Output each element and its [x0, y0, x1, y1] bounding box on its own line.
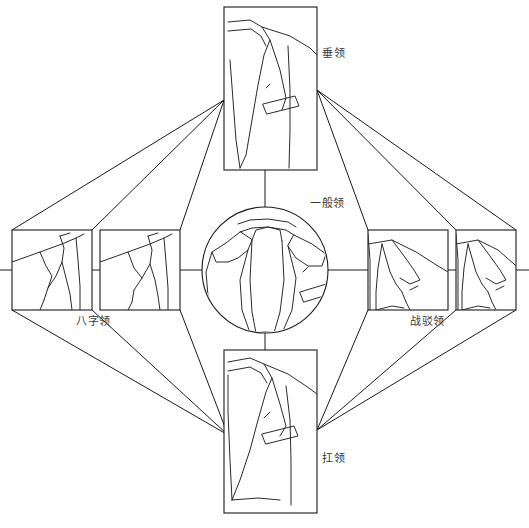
ray-top-right-c: [317, 90, 516, 230]
node-right-outer-label: 战驳领: [410, 315, 445, 328]
node-center-label: 一般领: [310, 197, 345, 210]
ray-bot-left-b: [180, 310, 228, 435]
node-top-label: 垂领: [322, 47, 345, 60]
ray-bot-left-a: [92, 310, 228, 435]
node-center-frame[interactable]: [202, 207, 328, 333]
diagram-canvas: 垂领 一般领: [0, 0, 529, 528]
ray-bot-right-a: [317, 310, 368, 430]
ray-top-left-a: [92, 100, 224, 230]
node-right-inner[interactable]: [368, 230, 448, 310]
ray-top-left-b: [180, 100, 224, 230]
node-top-frame[interactable]: [224, 7, 317, 170]
node-bottom[interactable]: 扛领: [224, 350, 345, 513]
ray-bot-left-c: [12, 310, 228, 435]
node-bottom-label: 扛领: [322, 452, 345, 465]
node-left-outer-label: 八字领: [76, 314, 111, 328]
ray-top-left-c: [12, 100, 224, 230]
node-left-inner[interactable]: [100, 230, 180, 310]
node-top[interactable]: 垂领: [224, 7, 345, 170]
node-center[interactable]: 一般领: [202, 197, 345, 333]
ray-bot-right-b: [317, 310, 456, 430]
ray-bot-right-c: [317, 310, 516, 430]
collar-type-diagram: 垂领 一般领: [0, 0, 529, 528]
